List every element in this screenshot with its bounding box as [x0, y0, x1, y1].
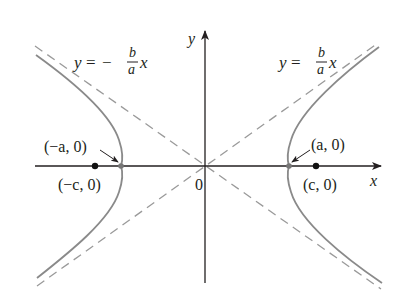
- right-vertex-label: (a, 0): [311, 136, 345, 154]
- neg-eq-sign: −: [102, 53, 112, 72]
- y-axis-label: y: [186, 30, 196, 48]
- right-vertex-pointer-arrow: [292, 150, 310, 162]
- neg-eq-numerator: b: [129, 45, 136, 60]
- asymptote-positive-slope: [37, 43, 378, 286]
- pos-eq-numerator: b: [318, 45, 325, 60]
- asymptote-negative-label: y = − b a x: [72, 45, 148, 77]
- neg-eq-var: x: [139, 53, 148, 72]
- pos-eq-equals: =: [291, 53, 301, 72]
- right-focus-dot: [313, 163, 319, 169]
- left-vertex-label: (−a, 0): [44, 138, 87, 156]
- origin-label: 0: [195, 176, 203, 193]
- neg-eq-denominator: a: [128, 62, 135, 77]
- neg-eq-lhs: y: [72, 53, 82, 72]
- left-focus-label: (−c, 0): [58, 176, 101, 194]
- asymptote-positive-label: y = b a x: [277, 45, 337, 77]
- right-vertex-dot: [286, 163, 292, 169]
- right-focus-label: (c, 0): [303, 176, 337, 194]
- neg-eq-equals: =: [86, 53, 96, 72]
- hyperbola-right-branch: [288, 47, 382, 283]
- left-focus-dot: [92, 163, 98, 169]
- pos-eq-var: x: [328, 53, 337, 72]
- left-vertex-pointer-arrow: [100, 150, 118, 162]
- asymptote-negative-slope: [35, 46, 381, 289]
- x-axis-label: x: [369, 172, 377, 189]
- pos-eq-lhs: y: [277, 53, 287, 72]
- hyperbola-diagram: y x 0 y = − b a x y = b a x (−a, 0) (a, …: [0, 0, 409, 306]
- pos-eq-denominator: a: [317, 62, 324, 77]
- left-vertex-dot: [118, 163, 124, 169]
